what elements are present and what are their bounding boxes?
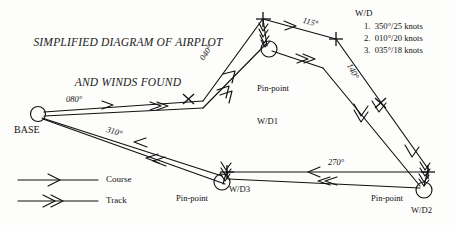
pinpoint-wd1-circle — [261, 41, 277, 57]
wind-item-3: 3. 035°/18 knots — [364, 44, 423, 56]
pinpoint-wd3-label-line-1: Pin-point — [176, 193, 208, 204]
pinpoint-wd2-label-line-2: W/D2 — [411, 205, 432, 216]
pinpoint-wd2-label-line-1: Pin-point — [371, 193, 403, 204]
leg-140-track-line — [323, 68, 420, 186]
wind-item-1: 1. 350°/25 knots — [364, 20, 423, 32]
bearing-270-label: 270° — [328, 158, 344, 168]
wind-panel-heading: W/D — [355, 8, 373, 18]
bearing-080-label: 080° — [66, 95, 82, 105]
wind-item-2: 2. 010°/20 knots — [364, 32, 423, 44]
leg-115-course-line — [263, 19, 336, 39]
pinpoint-wd1-label-line-2: W/D1 — [257, 116, 289, 127]
key-course-label: Course — [106, 174, 132, 184]
leg-310-track-line — [43, 119, 225, 184]
diagram-title: SIMPLIFIED DIAGRAM OF AIRPLOT AND WINDS … — [28, 10, 228, 116]
pinpoint-wd1-label: Pin-point W/D1 — [257, 62, 289, 148]
diagram-title-line-1: SIMPLIFIED DIAGRAM OF AIRPLOT — [28, 36, 228, 49]
leg-310-course-line — [42, 118, 222, 176]
pinpoint-wd3-label-line-2: W/D3 — [229, 184, 250, 195]
pinpoint-wd1-label-line-1: Pin-point — [257, 83, 289, 94]
key-track-label: Track — [106, 195, 127, 205]
diagram-canvas: .ln { stroke: #111111; stroke-width: 1.1… — [0, 0, 455, 225]
legend-key-lines — [18, 174, 98, 207]
base-label: BASE — [14, 124, 40, 136]
diagram-title-line-2: AND WINDS FOUND — [28, 76, 228, 89]
